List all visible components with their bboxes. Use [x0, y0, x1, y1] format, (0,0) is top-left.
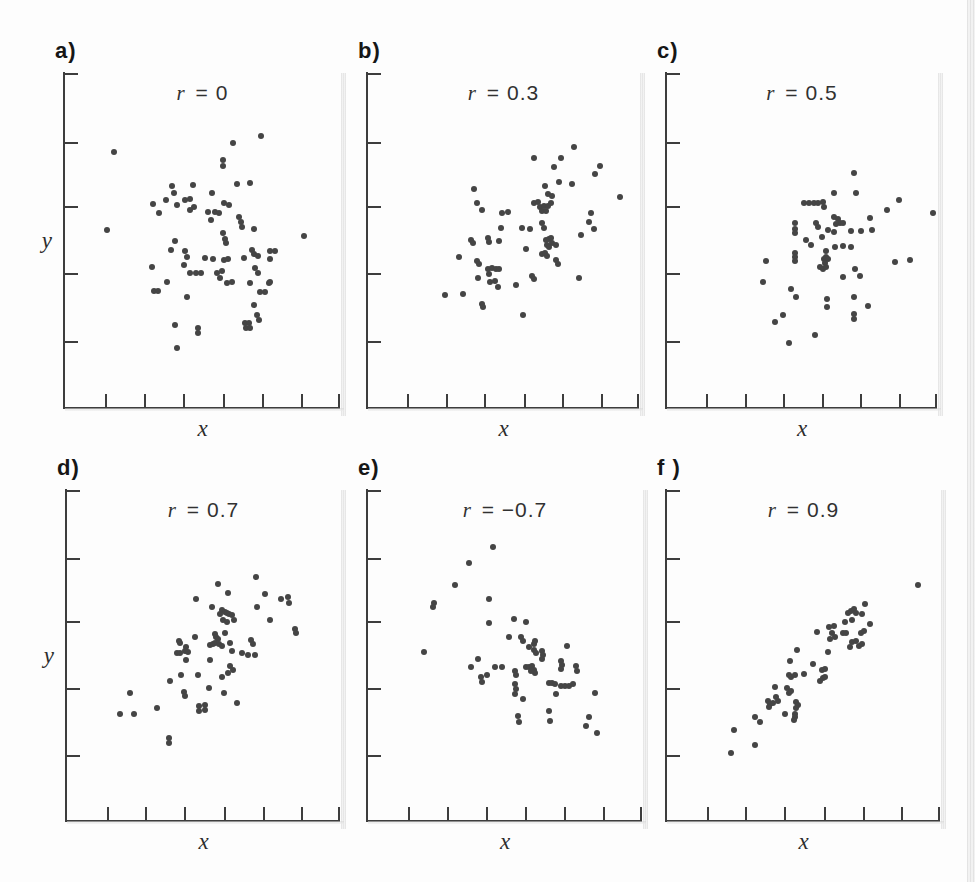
data-point [867, 621, 873, 627]
axis-shadow [368, 821, 646, 824]
panel-letter-d: d) [57, 455, 80, 481]
data-point [542, 183, 548, 189]
panel-edge-shadow [341, 490, 346, 829]
data-point [848, 244, 854, 250]
data-point [255, 253, 261, 259]
data-point [549, 193, 555, 199]
data-point [226, 202, 232, 208]
data-point [183, 657, 189, 663]
data-point [150, 201, 156, 207]
data-point [548, 200, 554, 206]
data-point [780, 312, 786, 318]
data-point [154, 705, 160, 711]
data-point [847, 644, 853, 650]
data-point [865, 303, 871, 309]
data-point [558, 666, 564, 672]
data-point [479, 679, 485, 685]
data-point [208, 217, 214, 223]
data-point [583, 723, 589, 729]
x-axis-label: x [667, 829, 940, 855]
data-point [468, 664, 474, 670]
data-point [163, 197, 169, 203]
data-point [209, 190, 215, 196]
data-point [772, 684, 778, 690]
data-point [564, 643, 570, 649]
data-point [207, 657, 213, 663]
data-point [164, 279, 170, 285]
data-point [884, 207, 890, 213]
data-point [496, 238, 502, 244]
data-point [547, 718, 553, 724]
data-point [858, 228, 864, 234]
data-point [543, 208, 549, 214]
data-point [592, 690, 598, 696]
data-point [174, 202, 180, 208]
data-point [227, 640, 233, 646]
data-point [496, 266, 502, 272]
data-point [523, 246, 529, 252]
data-point [229, 648, 235, 654]
data-point [471, 186, 477, 192]
data-point [597, 163, 603, 169]
scatter-points [368, 72, 639, 407]
data-point [442, 292, 448, 298]
data-point [588, 210, 594, 216]
data-point [192, 634, 198, 640]
data-point [195, 672, 201, 678]
data-point [803, 237, 809, 243]
data-point [220, 163, 226, 169]
data-point [495, 284, 501, 290]
scatter-panel-b: b) r = 0.3 x [366, 72, 639, 409]
data-point [155, 288, 161, 294]
scatter-points [368, 489, 642, 820]
scatter-panel-d: d) r = 0.7 x y [65, 489, 340, 822]
data-point [831, 190, 837, 196]
data-point [171, 190, 177, 196]
data-point [234, 181, 240, 187]
panel-letter-c: c) [657, 38, 679, 64]
data-point [792, 230, 798, 236]
data-point [558, 155, 564, 161]
data-point [301, 233, 307, 239]
data-point [574, 668, 580, 674]
data-point [421, 649, 427, 655]
data-point [791, 717, 797, 723]
axis-shadow [65, 408, 344, 411]
data-point [111, 149, 117, 155]
data-point [250, 641, 256, 647]
data-point [251, 302, 257, 308]
data-point [788, 688, 794, 694]
data-point [915, 582, 921, 588]
data-point [430, 604, 436, 610]
data-point [551, 164, 557, 170]
data-point [728, 750, 734, 756]
data-point [853, 190, 859, 196]
panel-letter-e: e) [358, 455, 380, 481]
data-point [262, 591, 268, 597]
data-point [117, 711, 123, 717]
data-point [247, 280, 253, 286]
data-point [278, 596, 284, 602]
data-point [470, 240, 476, 246]
data-point [219, 674, 225, 680]
data-point [474, 200, 480, 206]
data-point [843, 630, 849, 636]
data-point [520, 696, 526, 702]
axis-shadow [67, 821, 344, 824]
data-point [825, 649, 831, 655]
data-point [586, 714, 592, 720]
data-point [546, 708, 552, 714]
data-point [822, 666, 828, 672]
data-point [523, 619, 529, 625]
data-point [293, 630, 299, 636]
data-point [206, 685, 212, 691]
data-point [851, 316, 857, 322]
data-point [786, 340, 792, 346]
axis-shadow [368, 408, 643, 411]
data-point [788, 286, 794, 292]
panel-letter-f: f ) [657, 455, 681, 481]
data-point [576, 275, 582, 281]
data-point [810, 661, 816, 667]
data-point [209, 604, 215, 610]
panel-edge-shadow [643, 490, 648, 829]
